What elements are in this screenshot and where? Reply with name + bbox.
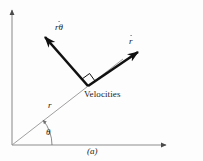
figure-canvas xyxy=(0,0,203,161)
polar-velocity-figure: rθ r Velocities r θ (a) xyxy=(0,0,203,161)
velocities-label: Velocities xyxy=(84,90,121,99)
angle-label: θ xyxy=(46,128,50,137)
transverse-velocity-label: rθ xyxy=(55,23,63,32)
radius-label: r xyxy=(48,101,52,110)
transverse-velocity-vector xyxy=(45,37,88,86)
radial-velocity-label: r xyxy=(129,37,133,46)
radius-line xyxy=(12,59,123,145)
radial-velocity-vector xyxy=(88,52,138,86)
radial-velocity-label-text: r xyxy=(129,37,133,46)
figure-caption: (a) xyxy=(87,147,98,156)
transverse-velocity-label-text: rθ xyxy=(55,23,63,32)
